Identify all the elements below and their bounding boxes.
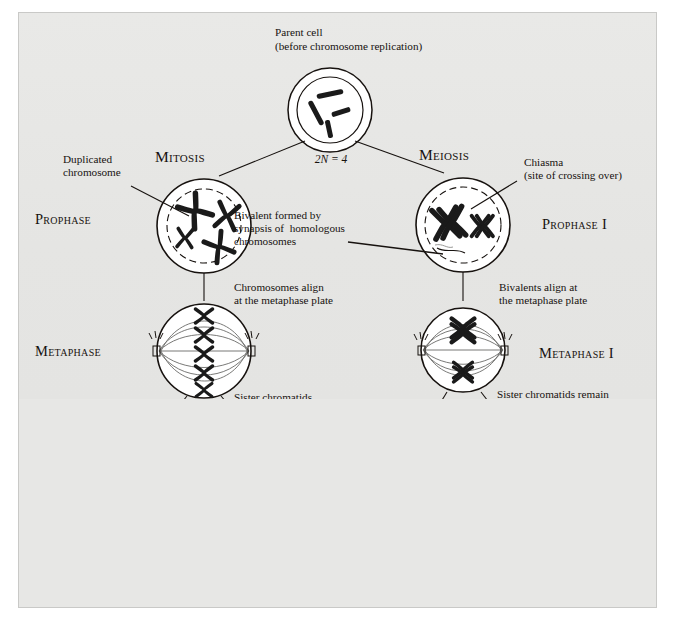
meiosis-title: Meiosis xyxy=(419,146,469,164)
mitosis-daughter-right-ploidy: 2N xyxy=(229,526,277,540)
stage-daughter-cells-meiosis-ii: Daughter Cells of meiosis II xyxy=(564,544,637,594)
stage-metaphase: Metaphase xyxy=(35,343,101,360)
mitosis-daughter-left-ploidy: 2N xyxy=(133,526,181,540)
bivalent-annotation: Bivalent formed by synapsis of homologou… xyxy=(234,209,345,249)
parent-cell-label-line1: Parent cell xyxy=(275,26,323,39)
parent-cell-label-line2: (before chromosome replication) xyxy=(275,40,422,53)
stage-prophase: Prophase xyxy=(35,211,91,228)
mitosis-title: Mitosis xyxy=(155,148,205,166)
meiosis-anaphase-annotation: Sister chromatids remain together during… xyxy=(497,388,616,414)
mitosis-anaphase-annotation: Sister chromatids separate during anapha… xyxy=(234,391,346,417)
stage-daughter-cells-meiosis-i: Daughter cells of meiosis I xyxy=(546,430,642,463)
duplicated-chromosome-annotation: Duplicated chromosome xyxy=(63,153,121,179)
stage-metaphase-i: Metaphase I xyxy=(539,345,614,362)
stage-daughter-cells: Daughter Cells xyxy=(35,448,95,481)
chiasma-annotation: Chiasma (site of crossing over) xyxy=(524,156,622,182)
meiosis2-ploidy-2: N xyxy=(412,598,460,608)
diagram-labels: Parent cell (before chromosome replicati… xyxy=(19,13,656,607)
meiosis2-ploidy-3: N xyxy=(465,598,513,608)
meiosis2-ploidy-4: N xyxy=(518,598,566,608)
meiosis-metaphase-annotation: Bivalents align at the metaphase plate xyxy=(499,281,587,307)
parent-cell-ploidy: 2N = 4 xyxy=(307,153,355,167)
mitosis-metaphase-annotation: Chromosomes align at the metaphase plate xyxy=(234,281,333,307)
meiosis2-ploidy-1: N xyxy=(359,598,407,608)
no-further-replication-annotation: No further chromosomal replication; sist… xyxy=(546,465,635,531)
diagram-canvas: Parent cell (before chromosome replicati… xyxy=(18,12,657,608)
stage-prophase-i: Prophase I xyxy=(542,216,607,233)
